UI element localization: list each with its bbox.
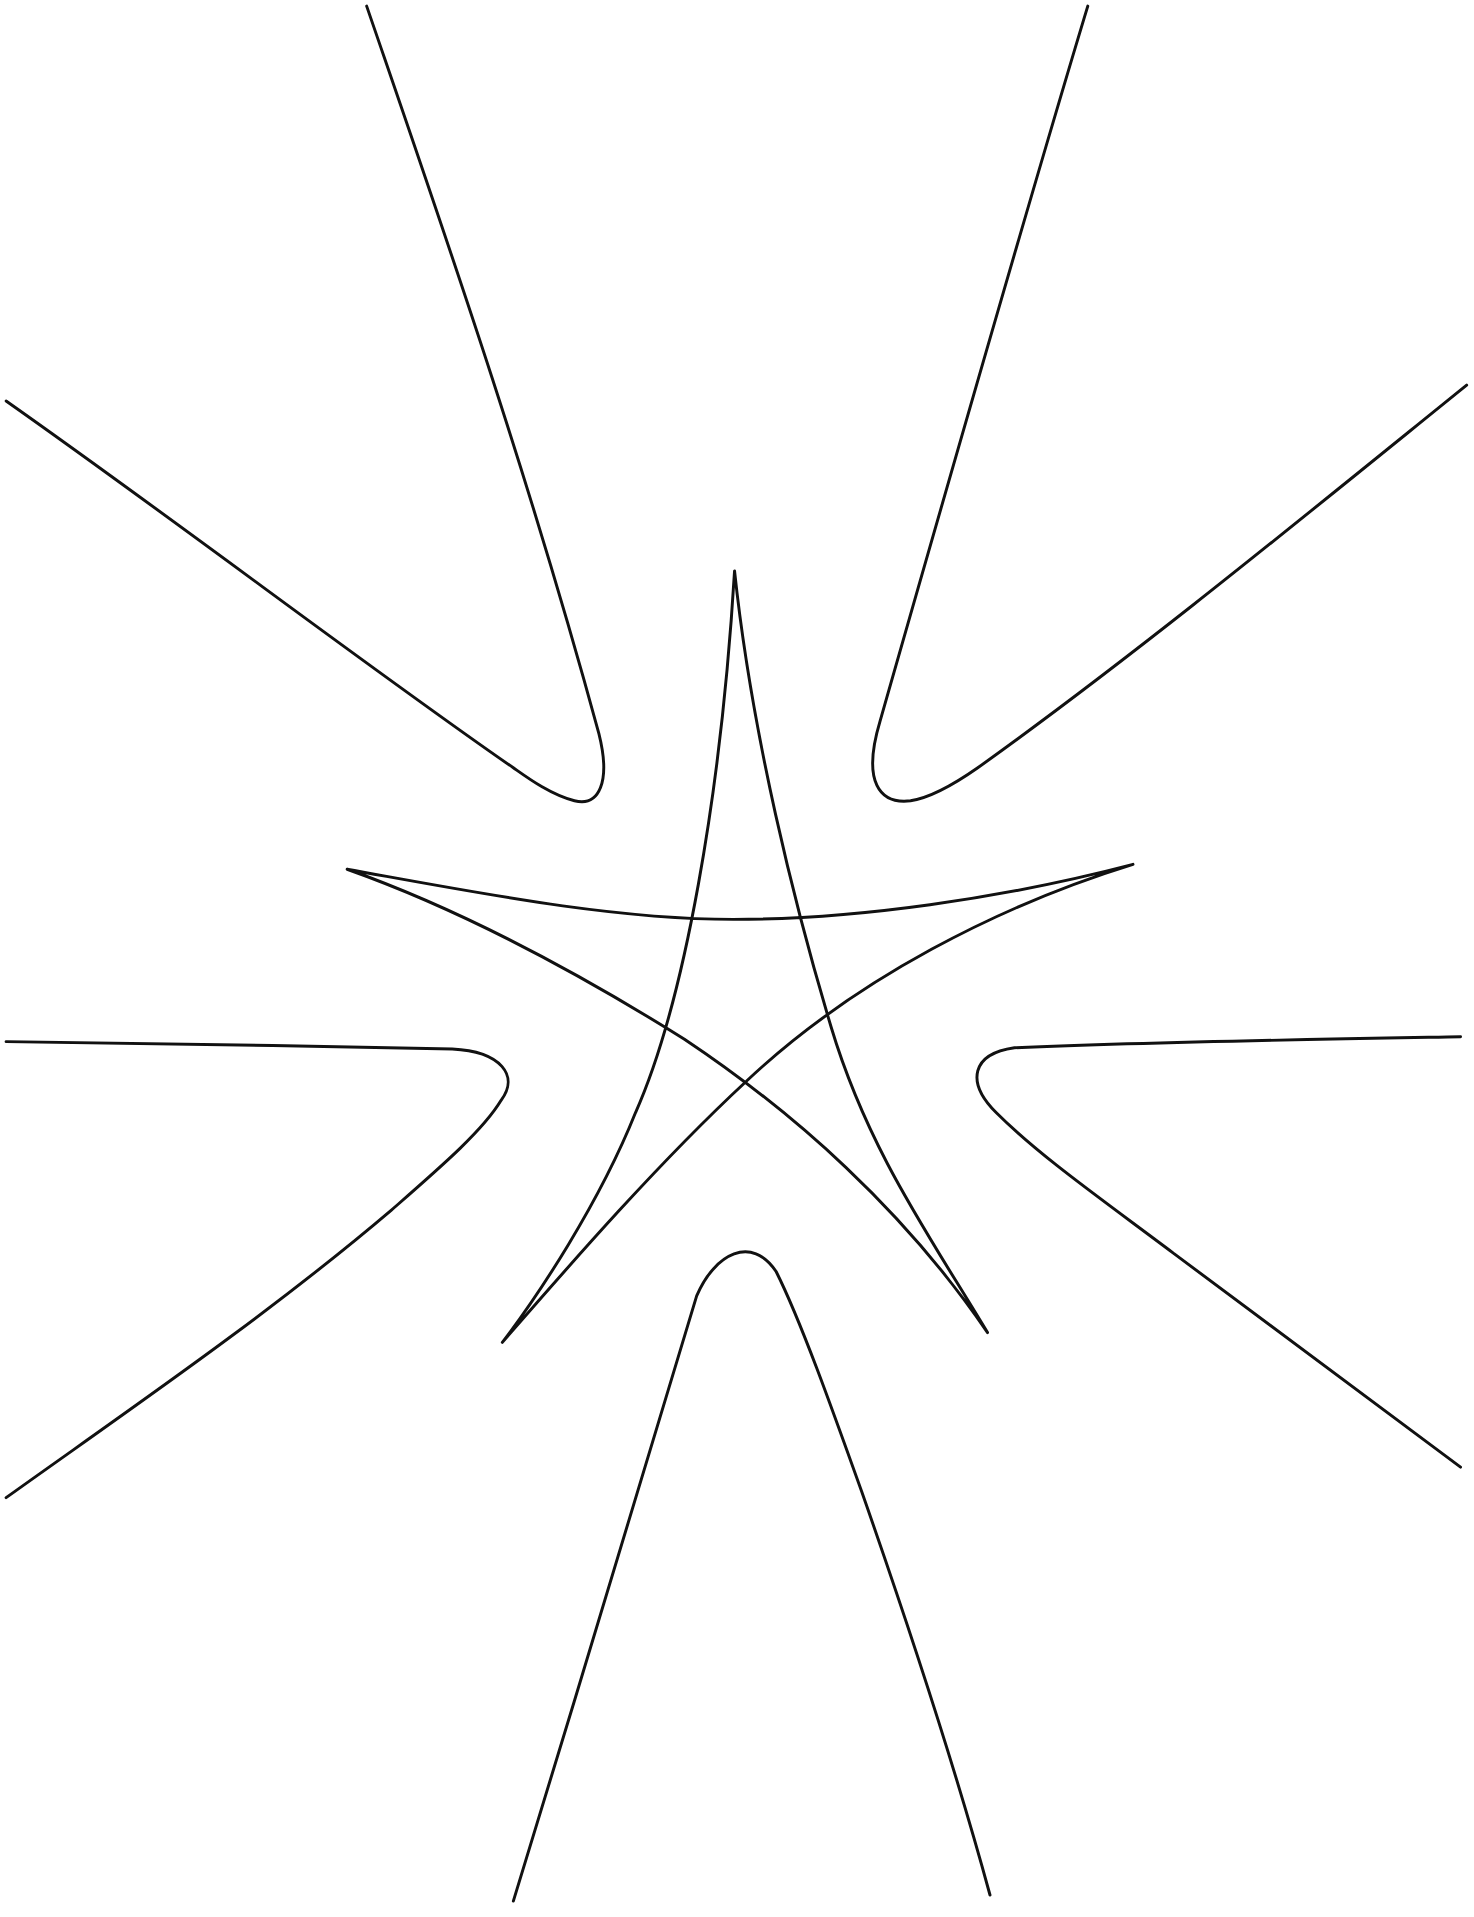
arm-bottom	[513, 1252, 990, 1901]
arm-lower-right	[977, 1037, 1461, 1467]
arm-upper-right	[873, 6, 1467, 801]
central-star	[347, 571, 1133, 1342]
arm-lower-left	[6, 1042, 508, 1498]
arm-upper-left	[6, 6, 604, 802]
line-drawing	[0, 0, 1474, 1917]
